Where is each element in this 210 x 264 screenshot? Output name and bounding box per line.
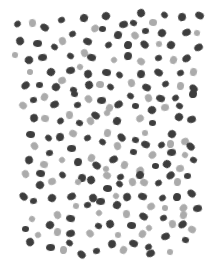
dark-spot (137, 211, 148, 221)
dark-spot (175, 102, 184, 110)
dark-spot (35, 82, 43, 89)
dark-spot (140, 139, 151, 148)
dark-spot (12, 19, 21, 28)
dark-spot (128, 238, 139, 247)
dark-spot (65, 228, 76, 238)
light-spot (73, 203, 80, 210)
light-spot (126, 78, 135, 88)
dark-spot (65, 191, 76, 201)
dark-spot (135, 7, 146, 18)
dark-spot (118, 19, 129, 29)
light-spot (118, 245, 127, 255)
dark-spot (102, 184, 111, 191)
dark-spot (45, 149, 53, 157)
light-spot (59, 246, 66, 254)
dark-spot (176, 69, 185, 78)
dark-spot (180, 27, 191, 37)
light-spot (189, 67, 197, 76)
dark-spot (189, 90, 197, 98)
dark-spot (112, 200, 122, 210)
dark-spot (103, 41, 112, 50)
dark-spot (82, 134, 91, 143)
light-spot (53, 228, 61, 237)
dark-spot (92, 247, 100, 255)
light-spot (29, 141, 40, 152)
light-spot (147, 150, 158, 161)
dark-spot (154, 54, 163, 62)
light-spot (149, 18, 157, 25)
dark-spot (153, 179, 162, 188)
dark-spot (67, 30, 76, 39)
dark-spot (29, 113, 40, 124)
dark-spot (173, 111, 184, 122)
dark-spot (101, 68, 111, 76)
dark-spot (66, 144, 75, 152)
dark-spot (177, 12, 187, 22)
dark-spot (14, 35, 25, 46)
dark-spot (32, 39, 41, 47)
light-spot (115, 232, 122, 239)
dark-spot (21, 226, 28, 232)
light-spot (103, 129, 111, 138)
spotted-pattern-canvas (0, 0, 210, 264)
dark-spot (176, 218, 187, 229)
light-spot (12, 52, 19, 59)
light-spot (39, 92, 49, 102)
dark-spot (55, 132, 65, 142)
light-spot (18, 100, 29, 110)
dark-spot (96, 96, 106, 104)
light-spot (155, 40, 162, 47)
light-spot (169, 55, 178, 65)
light-spot (142, 130, 149, 137)
dark-spot (180, 52, 191, 63)
dark-spot (138, 38, 149, 49)
dark-spot (70, 90, 78, 97)
light-spot (28, 215, 36, 223)
dark-spot (157, 193, 166, 202)
dark-spot (105, 83, 114, 92)
dark-spot (170, 93, 179, 102)
dark-spot (82, 68, 93, 79)
dark-spot (45, 243, 54, 251)
dark-spot (159, 231, 170, 241)
dark-spot (157, 28, 168, 39)
light-spot (20, 169, 30, 179)
light-spot (95, 209, 103, 217)
dark-spot (24, 155, 35, 166)
dark-spot (193, 10, 204, 20)
dark-spot (37, 53, 47, 61)
light-spot (41, 114, 50, 122)
light-spot (167, 249, 174, 256)
light-spot (168, 219, 177, 228)
dark-spot (107, 239, 117, 249)
light-spot (127, 177, 136, 187)
dark-spot (131, 103, 138, 109)
dark-spot (166, 148, 176, 156)
light-spot (27, 69, 33, 75)
dark-spot (38, 22, 49, 32)
light-spot (179, 210, 188, 219)
dark-spot (24, 236, 35, 247)
dark-spot (192, 204, 202, 213)
light-spot (39, 160, 48, 168)
dark-spot (131, 136, 139, 143)
dark-spot (95, 197, 105, 205)
dark-spot (75, 248, 86, 259)
dark-spot (136, 69, 145, 78)
dark-spot (29, 197, 37, 204)
dark-spot (65, 214, 75, 222)
dark-spot (183, 173, 191, 180)
dark-spot (49, 43, 58, 52)
dark-spot (45, 66, 56, 77)
dark-spot (100, 10, 111, 21)
light-spot (130, 30, 141, 41)
light-spot (74, 178, 81, 185)
light-spot (162, 205, 168, 211)
dark-spot (57, 16, 66, 24)
light-spot (193, 29, 200, 36)
dark-spot (122, 192, 132, 202)
dark-spot (161, 158, 172, 169)
dark-spot (129, 149, 137, 156)
dark-spot (35, 180, 46, 191)
light-spot (166, 140, 173, 148)
